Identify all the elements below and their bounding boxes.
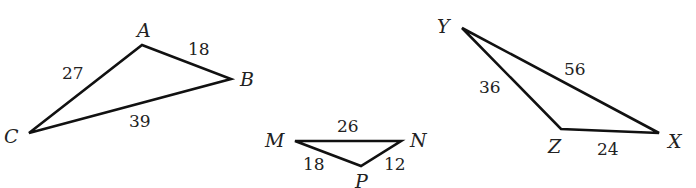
vertex-label-a: A bbox=[135, 19, 151, 41]
side-length-zx: 24 bbox=[597, 139, 619, 159]
vertex-label-m: M bbox=[264, 129, 285, 151]
triangle-xyz: Y Z X 36 56 24 bbox=[437, 15, 683, 159]
triangles-figure: A B C 27 18 39 M N P 26 18 12 Y Z X 36 5… bbox=[0, 0, 696, 188]
side-length-ab: 18 bbox=[188, 39, 210, 59]
side-length-yx: 56 bbox=[564, 59, 586, 79]
vertex-label-y: Y bbox=[437, 15, 452, 37]
side-length-ac: 27 bbox=[62, 63, 84, 83]
side-length-mn: 26 bbox=[337, 116, 359, 136]
vertex-label-n: N bbox=[409, 129, 428, 151]
vertex-label-x: X bbox=[666, 130, 683, 152]
vertex-label-p: P bbox=[354, 170, 369, 188]
vertex-label-b: B bbox=[239, 68, 254, 90]
side-length-mp: 18 bbox=[303, 154, 325, 174]
vertex-label-z: Z bbox=[547, 135, 562, 157]
side-length-yz: 36 bbox=[479, 77, 501, 97]
side-length-np: 12 bbox=[384, 154, 406, 174]
vertex-label-c: C bbox=[4, 125, 19, 147]
triangle-abc: A B C 27 18 39 bbox=[4, 19, 254, 147]
side-length-bc: 39 bbox=[129, 111, 151, 131]
triangle-mnp: M N P 26 18 12 bbox=[264, 116, 428, 188]
